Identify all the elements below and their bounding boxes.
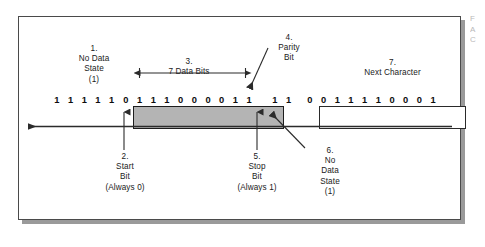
callout-5-line3: (Always 1) [218,183,296,193]
callout-3-line1: 7 Data Bits [129,67,249,77]
bitrow-idle-between: 11 [268,93,295,107]
callout-7-number: 7. [319,58,466,68]
callout-4-line1: Parity [259,43,319,53]
bit-cell: 0 [187,93,201,107]
callout-1-line3: (1) [57,75,131,85]
callout-1-line2: State [57,64,131,74]
callout-1-line1: No Data [57,54,131,64]
bit-cell: 1 [330,93,344,107]
bit-cell: 0 [413,93,427,107]
bit-cell: 1 [371,93,385,107]
bit-cell: 1 [133,93,147,107]
bit-cell: 0 [201,93,215,107]
callout-5-number: 5. [218,152,296,162]
callout-1-number: 1. [57,44,131,54]
bit-cell-parity: 1 [229,93,243,107]
bit-cell: 1 [160,93,174,107]
next-character-box [319,106,466,129]
bit-cell: 1 [91,93,105,107]
bit-cell: 1 [268,93,282,107]
callout-no-data-state-left: 1. No Data State (1) [57,44,131,85]
callout-stop-bit: 5. Stop Bit (Always 1) [218,152,296,193]
edge-caption: F A C [470,14,485,46]
callout-5-line1: Stop [218,162,296,172]
bit-cell: 0 [215,93,229,107]
bit-cell: 1 [344,93,358,107]
bit-cell: 1 [146,93,160,107]
framed-character-box [133,106,284,129]
callout-5-line2: Bit [218,172,296,182]
bit-cell: 0 [174,93,188,107]
callout-6-line4: (1) [300,187,360,197]
bit-cell: 1 [426,93,440,107]
callout-2-number: 2. [86,152,164,162]
bit-cell: 1 [50,93,64,107]
bit-cell: 1 [282,93,296,107]
callout-4-line2: Bit [259,53,319,63]
bitrow-next-character: 0011110001 [303,93,440,107]
callout-2-line2: Bit [86,172,164,182]
bitrow-framed-character: 0111000011 [119,93,256,107]
callout-start-bit: 2. Start Bit (Always 0) [86,152,164,193]
bit-cell: 1 [358,93,372,107]
bit-cell: 1 [105,93,119,107]
callout-next-character: 7. Next Character [319,58,466,78]
bit-cell: 0 [303,93,317,107]
callout-no-data-state-right: 6. No Data State (1) [300,146,360,197]
bit-cell: 0 [385,93,399,107]
bitrow-idle-before: 11111 [50,93,118,107]
bit-cell-stop: 1 [242,93,256,107]
bit-cell: 0 [399,93,413,107]
bit-cell: 1 [77,93,91,107]
bit-cell: 1 [64,93,78,107]
callout-2-line3: (Always 0) [86,183,164,193]
bit-cell-start: 0 [119,93,133,107]
callout-7-data-bits: 3. 7 Data Bits [129,57,249,77]
bit-cell: 0 [317,93,331,107]
callout-parity-bit: 4. Parity Bit [259,33,319,64]
callout-2-line1: Start [86,162,164,172]
callout-3-number: 3. [129,57,249,67]
figure-root: 1. No Data State (1) 3. 7 Data Bits 4. P… [0,0,485,247]
callout-7-line1: Next Character [319,68,466,78]
edge-caption-line-1: F [470,14,485,25]
callout-6-line1: No [300,156,360,166]
callout-6-number: 6. [300,146,360,156]
edge-caption-line-3: C [470,35,485,46]
callout-6-line3: State [300,177,360,187]
edge-caption-line-2: A [470,25,485,36]
callout-4-number: 4. [259,33,319,43]
callout-6-line2: Data [300,166,360,176]
